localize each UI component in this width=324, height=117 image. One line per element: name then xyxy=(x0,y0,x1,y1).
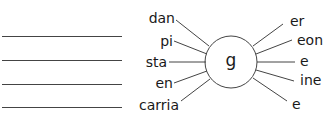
prefix-pi: pi xyxy=(160,33,173,49)
prefix-carria: carria xyxy=(139,97,179,113)
spoke-en xyxy=(174,71,207,83)
prefix-sta: sta xyxy=(146,54,167,70)
suffix-e-2: e xyxy=(292,96,301,112)
spoke-carria xyxy=(181,79,210,101)
suffix-eon: eon xyxy=(297,32,323,48)
suffix-ine: ine xyxy=(300,72,321,88)
prefix-en: en xyxy=(156,75,174,91)
word-wheel-diagram: g dan pi sta en carria er eon e ine e xyxy=(0,0,324,117)
suffix-e-1: e xyxy=(300,53,309,69)
spoke-ine xyxy=(256,70,294,81)
spoke-dan xyxy=(176,20,209,46)
spoke-pi xyxy=(174,41,207,54)
center-letter: g xyxy=(221,50,241,70)
spoke-er xyxy=(253,24,283,46)
spoke-e-2 xyxy=(253,78,287,101)
suffix-er: er xyxy=(290,13,304,29)
spoke-eon xyxy=(256,40,292,54)
prefix-dan: dan xyxy=(149,10,175,26)
